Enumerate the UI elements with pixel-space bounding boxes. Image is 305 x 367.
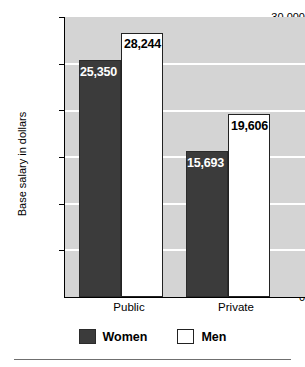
value-label-public-men: 28,244 (124, 37, 161, 51)
bar-private-men[interactable] (228, 114, 270, 297)
bar-public-women[interactable] (79, 60, 121, 297)
x-axis-line (65, 297, 305, 298)
legend-label-men: Men (201, 330, 226, 344)
value-label-private-women: 15,693 (187, 156, 224, 170)
x-category-label-public: Public (96, 301, 162, 313)
y-axis-title: Base salary in dollars (16, 54, 28, 274)
plot-area: 25,350 28,244 15,693 19,606 (65, 17, 305, 297)
legend-swatch-women-icon (79, 329, 96, 344)
legend-item-men[interactable]: Men (177, 329, 226, 344)
value-label-private-men: 19,606 (231, 119, 268, 133)
chart-legend: Women Men (0, 329, 305, 344)
bar-private-women[interactable] (186, 151, 228, 297)
bar-chart-figure: Base salary in dollars 30,000 25,000 20,… (0, 0, 305, 367)
legend-label-women: Women (103, 330, 148, 344)
x-category-label-private: Private (203, 301, 269, 313)
value-label-public-women: 25,350 (80, 65, 117, 79)
bar-public-men[interactable] (121, 33, 163, 297)
legend-item-women[interactable]: Women (79, 329, 148, 344)
bottom-divider (14, 359, 291, 360)
legend-swatch-men-icon (177, 329, 194, 344)
